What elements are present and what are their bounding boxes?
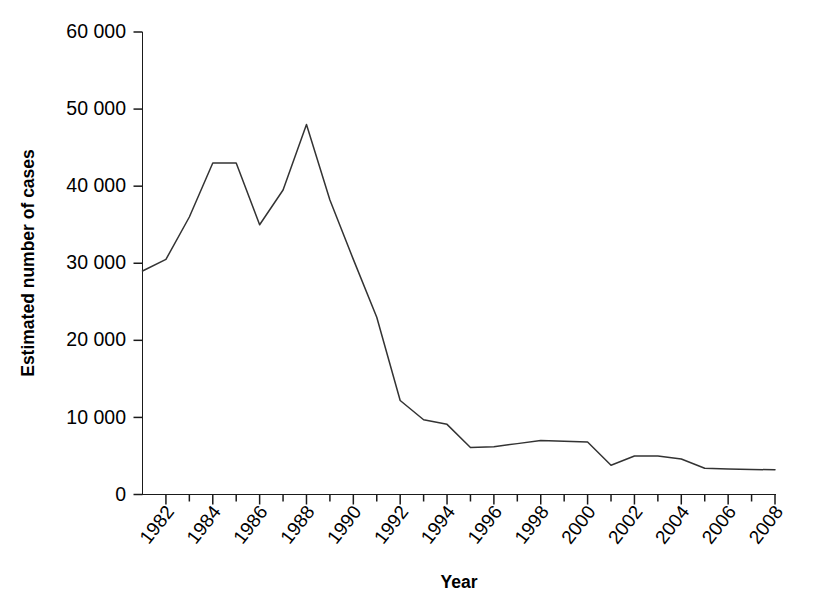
x-axis-tick-label: 2002 (604, 502, 647, 548)
x-axis-tick-label: 1992 (370, 502, 413, 548)
x-axis-tick-label: 2008 (745, 502, 788, 548)
x-axis-tick-label: 1994 (417, 501, 460, 548)
y-axis-tick-label: 20 000 (66, 328, 126, 350)
x-axis-tick-label: 2004 (651, 501, 694, 548)
y-axis-ticks (134, 32, 143, 495)
x-axis-tick-label: 1986 (229, 502, 272, 548)
y-axis-tick-label: 60 000 (66, 20, 126, 42)
data-series-group (143, 125, 776, 470)
y-axis-title: Estimated number of cases (18, 149, 38, 377)
x-axis-tick-label: 1996 (463, 502, 506, 548)
x-axis-tick-label: 1998 (510, 502, 553, 548)
x-axis-tick-labels: 1982198419861988199019921994199619982000… (135, 501, 787, 548)
x-axis-title: Year (441, 572, 478, 592)
x-axis-tick-label: 1984 (182, 501, 225, 548)
y-axis-tick-label: 40 000 (66, 174, 126, 196)
y-axis-tick-label: 30 000 (66, 251, 126, 273)
x-axis-ticks (166, 495, 775, 505)
y-axis-tick-label: 0 (115, 483, 126, 505)
line-chart-canvas: 60 00050 00040 00030 00020 00010 0000 19… (0, 0, 828, 605)
x-axis-tick-label: 1988 (276, 502, 319, 548)
series-line-estimated-cases (143, 125, 776, 470)
y-axis-tick-labels: 60 00050 00040 00030 00020 00010 0000 (66, 20, 126, 505)
y-axis-tick-label: 10 000 (66, 406, 126, 428)
x-axis-tick-label: 1990 (323, 502, 366, 548)
x-axis-tick-label: 2006 (698, 502, 741, 548)
x-axis-tick-label: 2000 (557, 502, 600, 548)
x-axis-tick-label: 1982 (135, 502, 178, 548)
chart-figure: 60 00050 00040 00030 00020 00010 0000 19… (0, 0, 828, 605)
y-axis-tick-label: 50 000 (66, 97, 126, 119)
